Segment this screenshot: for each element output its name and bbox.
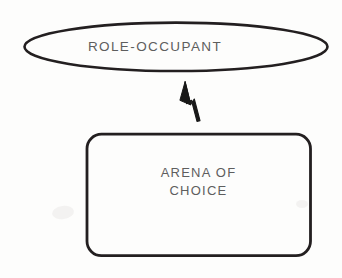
node-label-role-occupant: ROLE-OCCUPANT xyxy=(0,37,310,56)
arrow-head-fill xyxy=(180,82,191,105)
node-label-arena-of-choice-line-2: CHOICE xyxy=(86,182,311,200)
node-label-arena-of-choice: ARENA OF CHOICE xyxy=(86,164,311,201)
node-label-arena-of-choice-line-1: ARENA OF xyxy=(161,165,237,180)
diagram-canvas: ROLE-OCCUPANT ARENA OF CHOICE xyxy=(0,0,342,278)
edge-arena-to-role-occupant[interactable] xyxy=(180,82,200,122)
